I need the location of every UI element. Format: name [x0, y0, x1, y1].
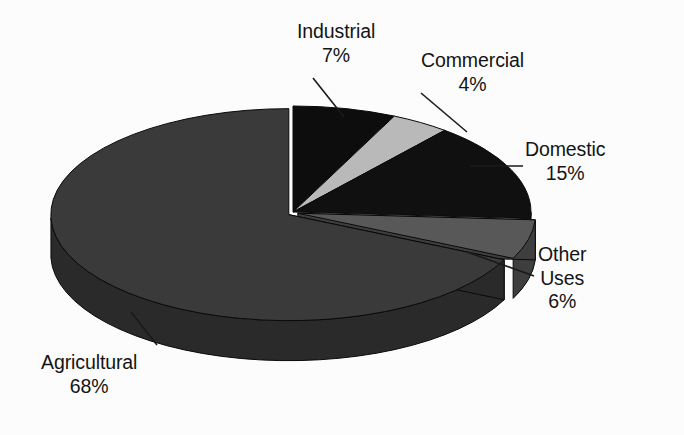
- slice-label-domestic-name: Domestic: [525, 138, 605, 162]
- slice-label-other-uses-value: 6%: [538, 290, 586, 314]
- slice-label-agricultural-name: Agricultural: [41, 351, 137, 375]
- slice-label-commercial: Commercial 4%: [421, 49, 524, 96]
- slice-label-domestic: Domestic 15%: [525, 138, 605, 185]
- slice-label-commercial-name: Commercial: [421, 49, 524, 73]
- slice-label-other-uses-name-2: Uses: [538, 267, 586, 291]
- slice-label-industrial-value: 7%: [297, 44, 375, 68]
- slice-label-industrial: Industrial 7%: [297, 20, 375, 67]
- slice-label-agricultural-value: 68%: [41, 375, 137, 399]
- slice-label-other-uses: Other Uses 6%: [538, 243, 586, 314]
- chart-canvas: Industrial 7% Commercial 4% Domestic 15%…: [0, 0, 684, 435]
- slice-label-domestic-value: 15%: [525, 162, 605, 186]
- slice-label-agricultural: Agricultural 68%: [41, 351, 137, 398]
- slice-label-commercial-value: 4%: [421, 73, 524, 97]
- slice-label-industrial-name: Industrial: [297, 20, 375, 44]
- slice-label-other-uses-name-1: Other: [538, 243, 586, 267]
